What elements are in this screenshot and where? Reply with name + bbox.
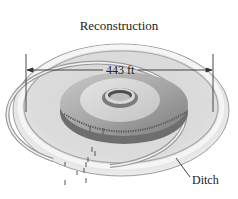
ditch-label: Ditch [192, 173, 219, 188]
central-platform [60, 72, 188, 144]
dimension-label: 443 ft [104, 63, 136, 78]
henge-reconstruction-illustration [0, 0, 238, 199]
